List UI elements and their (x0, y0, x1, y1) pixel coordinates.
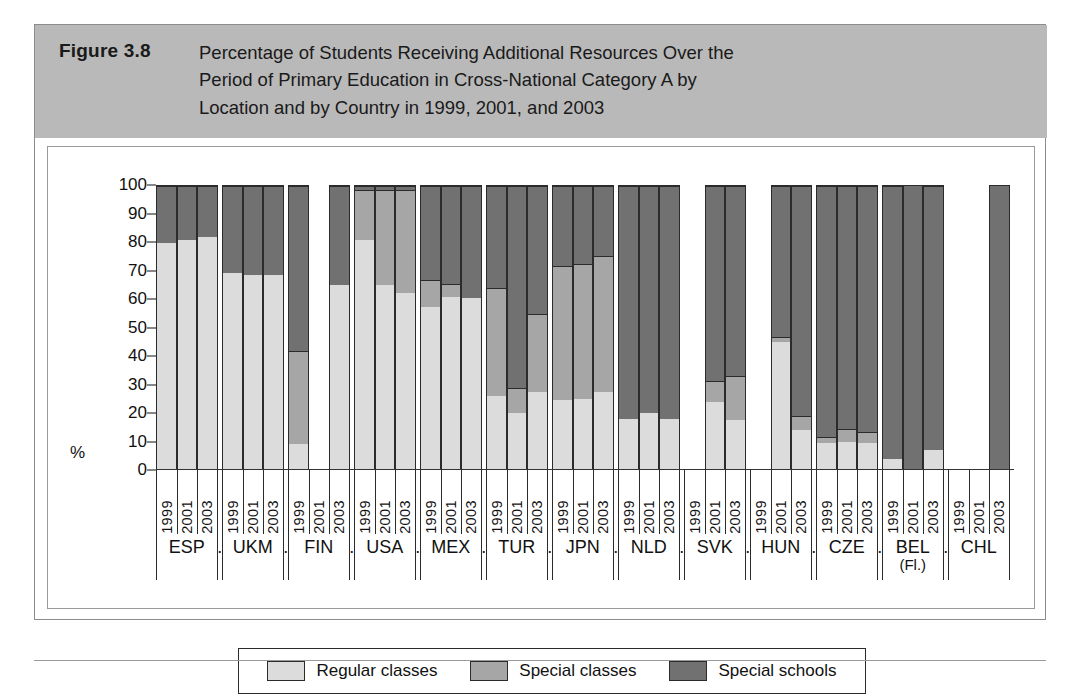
stacked-bar[interactable] (659, 185, 680, 470)
stacked-bar[interactable] (222, 185, 243, 470)
country-bar-group (750, 185, 812, 470)
bar-slot[interactable] (243, 185, 264, 470)
bar-slot[interactable] (593, 185, 614, 470)
bar-slot[interactable] (857, 185, 878, 470)
bar-slot[interactable] (816, 185, 837, 470)
stacked-bar[interactable] (705, 185, 726, 470)
bar-segment-special-classes (376, 190, 395, 285)
bar-slot[interactable] (177, 185, 198, 470)
stacked-bar[interactable] (156, 185, 177, 470)
year-label: 2001 (509, 498, 525, 534)
country-name-cell: NLD (618, 534, 680, 580)
bar-slot[interactable] (923, 185, 944, 470)
stacked-bar[interactable] (354, 185, 375, 470)
stacked-bar[interactable] (527, 185, 548, 470)
figure-frame: Figure 3.8 Percentage of Students Receiv… (34, 24, 1046, 620)
stacked-bar[interactable] (791, 185, 812, 470)
stacked-bar[interactable] (507, 185, 528, 470)
bar-slot[interactable] (989, 185, 1010, 470)
bar-slot[interactable] (573, 185, 594, 470)
bar-slot[interactable] (948, 185, 969, 470)
bar-slot[interactable] (969, 185, 990, 470)
stacked-bar[interactable] (461, 185, 482, 470)
stacked-bar[interactable] (441, 185, 462, 470)
bar-slot[interactable] (507, 185, 528, 470)
bar-slot[interactable] (395, 185, 416, 470)
stacked-bar[interactable] (552, 185, 573, 470)
bar-slot[interactable] (263, 185, 284, 470)
legend-item-special-schools[interactable]: Special schools (669, 661, 836, 681)
bar-slot[interactable] (771, 185, 792, 470)
stacked-bar[interactable] (903, 185, 924, 470)
stacked-bar[interactable] (263, 185, 284, 470)
axis-country-block: 199920012003JPN (552, 470, 614, 580)
bar-slot[interactable] (156, 185, 177, 470)
bar-slot[interactable] (750, 185, 771, 470)
bar-slot[interactable] (354, 185, 375, 470)
bar-segment-regular (726, 420, 745, 470)
year-tick-2003: 2003 (857, 470, 878, 534)
stacked-bar[interactable] (486, 185, 507, 470)
bar-slot[interactable] (329, 185, 350, 470)
x-axis-labels: 199920012003ESP.199920012003UKM.19992001… (156, 470, 1014, 580)
bar-slot[interactable] (705, 185, 726, 470)
bar-segment-special-classes (553, 266, 572, 401)
bar-slot[interactable] (288, 185, 309, 470)
year-tick-2001: 2001 (903, 470, 924, 534)
legend-item-special-classes[interactable]: Special classes (470, 661, 636, 681)
bar-segment-special-classes (508, 388, 527, 414)
stacked-bar[interactable] (816, 185, 837, 470)
bar-slot[interactable] (639, 185, 660, 470)
country-bar-group (948, 185, 1010, 470)
stacked-bar[interactable] (395, 185, 416, 470)
country-name-cell: MEX (420, 534, 482, 580)
stacked-bar[interactable] (989, 185, 1010, 470)
stacked-bar[interactable] (771, 185, 792, 470)
bar-slot[interactable] (375, 185, 396, 470)
stacked-bar[interactable] (725, 185, 746, 470)
year-tick-2001: 2001 (309, 470, 330, 534)
stacked-bar[interactable] (420, 185, 441, 470)
stacked-bar[interactable] (329, 185, 350, 470)
bar-slot[interactable] (837, 185, 858, 470)
year-tick-2003: 2003 (659, 470, 680, 534)
bar-slot[interactable] (486, 185, 507, 470)
stacked-bar[interactable] (197, 185, 218, 470)
bar-slot[interactable] (420, 185, 441, 470)
bar-slot[interactable] (791, 185, 812, 470)
bar-slot[interactable] (309, 185, 330, 470)
bar-slot[interactable] (618, 185, 639, 470)
bar-segment-special-schools (838, 186, 857, 429)
bar-slot[interactable] (552, 185, 573, 470)
bar-slot[interactable] (903, 185, 924, 470)
bar-segment-special-schools (924, 186, 943, 450)
bar-slot[interactable] (441, 185, 462, 470)
bar-slot[interactable] (197, 185, 218, 470)
stacked-bar[interactable] (573, 185, 594, 470)
bar-slot[interactable] (659, 185, 680, 470)
y-tick-mark (147, 270, 156, 271)
stacked-bar[interactable] (857, 185, 878, 470)
stacked-bar[interactable] (923, 185, 944, 470)
year-tick-2003: 2003 (197, 470, 218, 534)
country-name-cell: CZE (816, 534, 878, 580)
stacked-bar[interactable] (288, 185, 309, 470)
bar-slot[interactable] (882, 185, 903, 470)
bar-slot[interactable] (725, 185, 746, 470)
stacked-bar[interactable] (375, 185, 396, 470)
stacked-bar[interactable] (177, 185, 198, 470)
stacked-bar[interactable] (618, 185, 639, 470)
country-bar-group (486, 185, 548, 470)
bar-slot[interactable] (461, 185, 482, 470)
stacked-bar[interactable] (593, 185, 614, 470)
bar-slot[interactable] (684, 185, 705, 470)
stacked-bar[interactable] (837, 185, 858, 470)
legend-item-regular[interactable]: Regular classes (267, 661, 437, 681)
country-bar-group (420, 185, 482, 470)
stacked-bar[interactable] (639, 185, 660, 470)
bar-slot[interactable] (527, 185, 548, 470)
axis-country-block: 199920012003MEX (420, 470, 482, 580)
bar-slot[interactable] (222, 185, 243, 470)
stacked-bar[interactable] (243, 185, 264, 470)
stacked-bar[interactable] (882, 185, 903, 470)
